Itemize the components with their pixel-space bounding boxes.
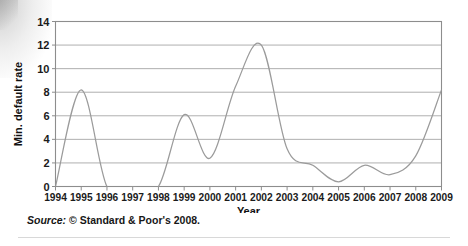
x-axis-title: Year	[237, 205, 261, 214]
x-tick-label-1999: 1999	[173, 192, 196, 203]
y-tick-label-2: 2	[43, 157, 49, 169]
x-tick-label-1997: 1997	[121, 192, 144, 203]
y-tick-label-8: 8	[43, 86, 49, 98]
x-tick-label-1996: 1996	[96, 192, 119, 203]
y-tick-label-12: 12	[37, 39, 49, 51]
axis-frame	[56, 22, 442, 187]
line-chart: 0246810121419941995199619971998199920002…	[0, 0, 468, 213]
source-note: Source: © Standard & Poor's 2008.	[27, 214, 200, 226]
y-axis-title: Min. default rate	[12, 62, 24, 146]
y-tick-label-4: 4	[43, 133, 50, 145]
x-tick-label-2004: 2004	[301, 192, 324, 203]
figure-container: 0246810121419941995199619971998199920002…	[0, 0, 468, 246]
x-tick-label-2002: 2002	[250, 192, 273, 203]
x-tick-label-2009: 2009	[430, 192, 453, 203]
x-tick-label-1998: 1998	[147, 192, 170, 203]
data-series-min-default-rate	[56, 43, 442, 194]
bottom-divider-rule	[18, 237, 450, 238]
x-tick-label-2003: 2003	[276, 192, 299, 203]
y-tick-label-0: 0	[43, 181, 49, 193]
y-tick-label-14: 14	[37, 16, 50, 28]
x-tick-label-1995: 1995	[70, 192, 93, 203]
x-tick-label-2000: 2000	[199, 192, 222, 203]
y-tick-label-6: 6	[43, 110, 49, 122]
x-tick-label-2006: 2006	[353, 192, 376, 203]
x-tick-label-2005: 2005	[327, 192, 350, 203]
source-text: © Standard & Poor's 2008.	[66, 214, 200, 226]
source-label: Source:	[27, 214, 66, 226]
chart-plot-area: 0246810121419941995199619971998199920002…	[0, 0, 468, 213]
x-tick-label-2001: 2001	[224, 192, 247, 203]
y-tick-label-10: 10	[37, 63, 49, 75]
x-tick-label-2007: 2007	[379, 192, 402, 203]
x-tick-label-1994: 1994	[44, 192, 67, 203]
x-tick-label-2008: 2008	[404, 192, 427, 203]
